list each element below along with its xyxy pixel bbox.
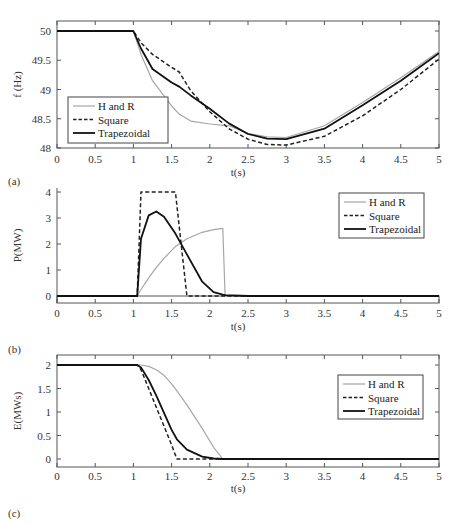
- chart-panel-c: 00.511.522.533.544.5500.511.52t(s)E(MWs)…: [8, 355, 442, 520]
- chart-panel-b: 00.511.522.533.544.5501234t(s)P(MW)(b)H …: [8, 186, 442, 356]
- y-axis-title: f (Hz): [11, 71, 24, 98]
- y-tick-label: 1: [46, 406, 52, 418]
- legend-label: H and R: [98, 100, 135, 112]
- x-tick-label: 0.5: [88, 307, 102, 319]
- x-tick-label: 1.5: [165, 470, 179, 482]
- y-tick-label: 49: [40, 84, 52, 96]
- x-tick-label: 4.5: [394, 470, 408, 482]
- series-h-and-r: [57, 228, 439, 296]
- x-tick-label: 3: [283, 470, 289, 482]
- x-tick-label: 1.5: [165, 307, 179, 319]
- x-tick-label: 2.5: [241, 307, 255, 319]
- y-tick-label: 2: [46, 238, 52, 250]
- legend: H and RSquareTrapezoidal: [338, 375, 423, 419]
- legend-label: H and R: [369, 196, 406, 208]
- x-tick-label: 3.5: [318, 307, 332, 319]
- x-tick-label: 0.5: [88, 153, 102, 165]
- legend: H and RSquareTrapezoidal: [339, 193, 424, 238]
- x-tick-label: 0: [54, 307, 60, 319]
- x-tick-label: 3.5: [318, 153, 332, 165]
- y-tick-label: 0.5: [37, 430, 51, 442]
- y-tick-label: 4: [46, 186, 52, 198]
- y-tick-label: 0: [46, 290, 52, 302]
- figure: 00.511.522.533.544.554848.54949.550t(s)f…: [0, 0, 459, 523]
- legend: H and RSquareTrapezoidal: [68, 97, 168, 143]
- x-tick-label: 2.5: [241, 153, 255, 165]
- y-tick-label: 1.5: [37, 383, 51, 395]
- legend-label: Trapezoidal: [98, 127, 150, 139]
- x-tick-label: 4.5: [394, 153, 408, 165]
- x-tick-label: 4: [360, 153, 366, 165]
- x-tick-label: 0: [54, 153, 60, 165]
- panel-label: (c): [8, 507, 21, 520]
- x-axis-title: t(s): [231, 482, 246, 495]
- x-tick-label: 4.5: [394, 307, 408, 319]
- y-tick-label: 0: [46, 453, 52, 465]
- legend-label: Square: [98, 114, 129, 126]
- panel-label: (b): [8, 343, 21, 356]
- x-tick-label: 3: [283, 153, 289, 165]
- x-tick-label: 5: [436, 307, 442, 319]
- x-axis-title: t(s): [231, 166, 246, 179]
- x-tick-label: 1.5: [165, 153, 179, 165]
- y-tick-label: 2: [46, 359, 52, 371]
- x-tick-label: 2: [207, 153, 213, 165]
- legend-label: H and R: [368, 378, 405, 390]
- y-axis-title: E(MWs): [11, 391, 24, 430]
- legend-label: Square: [369, 210, 400, 222]
- x-axis-title: t(s): [231, 320, 246, 333]
- y-tick-label: 48: [40, 142, 52, 154]
- x-tick-label: 4: [360, 470, 366, 482]
- y-tick-label: 48.5: [32, 113, 52, 125]
- x-tick-label: 3: [283, 307, 289, 319]
- x-tick-label: 4: [360, 307, 366, 319]
- legend-label: Trapezoidal: [368, 405, 420, 417]
- x-tick-label: 5: [436, 470, 442, 482]
- panel-label: (a): [8, 175, 21, 188]
- x-tick-label: 0: [54, 470, 60, 482]
- x-tick-label: 2: [207, 307, 213, 319]
- x-tick-label: 1: [131, 307, 137, 319]
- x-tick-label: 3.5: [318, 470, 332, 482]
- x-tick-label: 1: [131, 470, 137, 482]
- x-tick-label: 5: [436, 153, 442, 165]
- y-axis-title: P(MW): [11, 228, 24, 262]
- legend-label: Trapezoidal: [369, 223, 421, 235]
- y-tick-label: 3: [46, 212, 52, 224]
- x-tick-label: 2.5: [241, 470, 255, 482]
- x-tick-label: 2: [207, 470, 213, 482]
- x-tick-label: 0.5: [88, 470, 102, 482]
- x-tick-label: 1: [131, 153, 137, 165]
- y-tick-label: 1: [46, 264, 52, 276]
- y-tick-label: 50: [40, 25, 52, 37]
- legend-label: Square: [368, 392, 399, 404]
- y-tick-label: 49.5: [32, 54, 52, 66]
- chart-panel-a: 00.511.522.533.544.554848.54949.550t(s)f…: [8, 21, 442, 188]
